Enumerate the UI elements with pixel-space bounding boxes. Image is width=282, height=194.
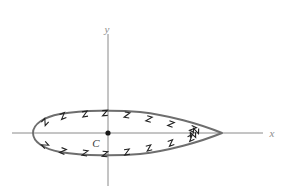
hatch-tick-icon bbox=[146, 116, 152, 122]
hatch-tick-icon bbox=[168, 121, 175, 128]
hatch-tick-icon bbox=[82, 111, 88, 117]
airfoil-figure: x y C bbox=[0, 0, 282, 194]
centroid-dot bbox=[105, 130, 110, 135]
figure-canvas: x y C bbox=[0, 0, 282, 194]
axes-group: x y bbox=[12, 23, 275, 186]
hatch-tick-icon bbox=[146, 145, 152, 151]
y-axis-label: y bbox=[104, 23, 110, 35]
centroid-label: C bbox=[92, 137, 100, 149]
x-axis-label: x bbox=[269, 127, 275, 139]
hatch-tick-icon bbox=[168, 140, 175, 147]
hatch-tick-icon bbox=[124, 112, 130, 118]
